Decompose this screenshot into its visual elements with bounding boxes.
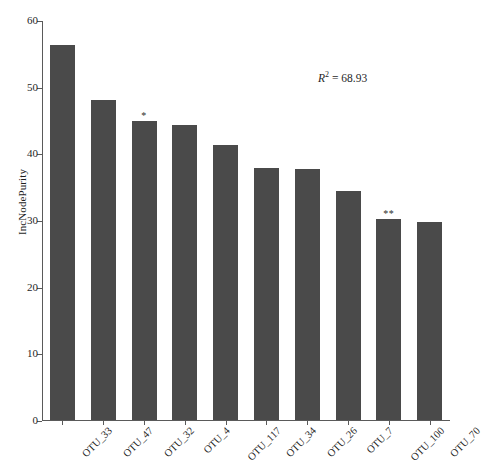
x-tick-label: OTU_33: [80, 425, 114, 459]
x-tick-label: OTU_34: [284, 425, 318, 459]
y-axis-line: [42, 21, 43, 421]
x-tick-label: OTU_7: [364, 425, 394, 455]
y-tick-label: 0: [33, 414, 39, 427]
significance-marker: **: [383, 210, 394, 218]
bar[interactable]: **: [376, 219, 401, 420]
bar[interactable]: [295, 169, 320, 420]
x-tick-mark: [103, 421, 104, 425]
bar[interactable]: [172, 125, 197, 420]
bar[interactable]: [336, 191, 361, 420]
bar[interactable]: [91, 100, 116, 420]
x-tick-mark: [266, 421, 267, 425]
x-tick-mark: [144, 421, 145, 425]
x-tick-mark: [226, 421, 227, 425]
y-tick-label: 40: [27, 147, 38, 160]
bar[interactable]: [417, 222, 442, 420]
y-tick-label: 60: [27, 14, 38, 27]
x-tick-label: OTU_32: [162, 425, 196, 459]
x-tick-label: OTU_100: [408, 425, 446, 463]
x-tick-label: OTU_4: [201, 425, 231, 455]
bar[interactable]: [50, 45, 75, 420]
plot-area: 0102030405060 ***: [42, 21, 450, 421]
bar[interactable]: [213, 145, 238, 420]
x-tick-mark: [307, 421, 308, 425]
x-tick-mark: [185, 421, 186, 425]
x-tick-label: OTU_70: [448, 425, 482, 459]
y-tick-label: 50: [27, 81, 38, 94]
y-tick-label: 20: [27, 281, 38, 294]
x-tick-mark: [62, 421, 63, 425]
y-axis-label: IncNodePurity: [16, 122, 28, 282]
x-tick-mark: [348, 421, 349, 425]
x-tick-mark: [389, 421, 390, 425]
y-tick-label: 30: [27, 214, 38, 227]
x-tick-label: OTU_26: [325, 425, 359, 459]
x-tick-mark: [430, 421, 431, 425]
y-tick-label: 10: [27, 347, 38, 360]
x-tick-label: OTU_47: [121, 425, 155, 459]
bar[interactable]: [254, 168, 279, 420]
significance-marker: *: [141, 112, 147, 120]
x-tick-label: OTU_117: [245, 425, 283, 463]
bar[interactable]: *: [132, 121, 157, 420]
